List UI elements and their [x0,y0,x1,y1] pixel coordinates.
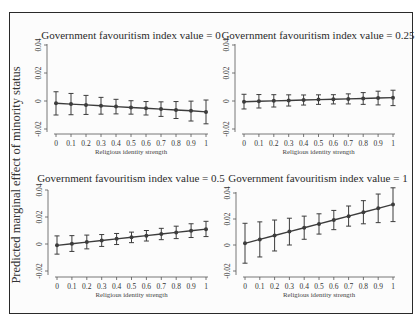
x-tick-label: 0.5 [314,139,324,148]
data-point [347,214,351,218]
x-tick-label: 0.7 [344,139,354,148]
x-tick-label: 0.2 [81,139,91,148]
data-point [376,206,380,210]
panel-title: Government favouritism index value = 0.5 [37,172,225,184]
data-point [174,230,178,234]
data-point [55,243,59,247]
x-tick-label: 0.8 [359,139,369,148]
y-tick-label: 0.04 [223,186,232,199]
x-tick-label: 1 [391,139,395,148]
x-tick-label: 0.4 [112,282,122,291]
x-tick-label: 0.9 [186,139,196,148]
data-point [114,105,118,109]
data-point [376,96,380,100]
x-tick-label: 0.1 [66,139,76,148]
data-point [317,98,321,102]
data-point [84,103,88,107]
data-point [258,237,262,241]
data-point [144,106,148,110]
chart-canvas: Government favouritism index value = 0-0… [0,0,420,327]
y-tick-label: 0.02 [34,66,43,79]
data-point [243,241,247,245]
x-tick-label: 0.6 [329,282,339,291]
x-tick-label: 0.1 [67,282,77,291]
x-tick-label: 0.3 [285,282,295,291]
x-tick-label: 0.6 [329,139,339,148]
x-tick-label: 0.3 [97,282,107,291]
data-point [272,99,276,103]
x-tick-label: 0 [54,139,58,148]
panel-title: Government favouritism index value = 0.2… [221,29,415,41]
x-tick-label: 0 [243,282,247,291]
data-point [332,218,336,222]
data-point [242,100,246,104]
panel-fav-1: Government favouritism index value = 1-0… [223,172,408,298]
y-tick-label: 0.02 [35,210,44,223]
x-tick-label: 0.8 [172,282,182,291]
panel-fav-0: Government favouritism index value = 0-0… [34,29,221,155]
data-point [204,110,208,114]
x-tick-label: 0.9 [186,282,196,291]
data-point [257,99,261,103]
data-point [144,234,148,238]
data-point [100,238,104,242]
data-point [391,202,395,206]
x-axis-label: Religious identity strength [282,148,355,155]
data-point [85,240,89,244]
data-point [361,96,365,100]
x-axis-label: Religious identity strength [95,291,168,298]
x-tick-label: 0.1 [254,139,264,148]
x-tick-label: 0.7 [156,139,166,148]
data-point [115,237,119,241]
x-tick-label: 0 [55,282,59,291]
data-point [204,227,208,231]
data-point [99,104,103,108]
y-tick-label: 0.04 [35,183,44,196]
data-point [287,230,291,234]
data-point [391,96,395,100]
data-point [129,105,133,109]
x-tick-label: 0.9 [373,139,383,148]
y-tick-label: -0.02 [35,263,44,279]
panel-title: Government favouritism index value = 0 [41,29,221,41]
y-tick-label: 0.02 [222,66,231,79]
data-point [302,98,306,102]
x-tick-label: 0.4 [299,139,309,148]
x-tick-label: 0.4 [111,139,121,148]
y-tick-label: 0 [34,99,43,103]
x-tick-label: 0.3 [96,139,106,148]
y-tick-label: -0.02 [222,121,231,137]
data-point [189,109,193,113]
x-tick-label: 0.7 [344,282,354,291]
y-tick-label: -0.02 [223,263,232,279]
x-tick-label: 0 [242,139,246,148]
x-tick-label: 0.5 [126,139,136,148]
y-tick-label: 0 [222,99,231,103]
data-point [317,222,321,226]
x-tick-label: 1 [391,282,395,291]
x-axis-label: Religious identity strength [283,291,356,298]
x-tick-label: 0.6 [141,139,151,148]
y-tick-label: 0 [223,243,232,247]
x-tick-label: 0.4 [300,282,310,291]
x-tick-label: 0.2 [269,139,279,148]
panel-title: Government favouritism index value = 1 [228,172,407,184]
y-tick-label: 0.04 [222,38,231,51]
data-point [159,232,163,236]
panel-fav-0.5: Government favouritism index value = 0.5… [35,172,225,298]
data-point [331,97,335,101]
y-tick-label: 0.04 [34,38,43,51]
x-tick-label: 0.2 [82,282,92,291]
panel-fav-0.25: Government favouritism index value = 0.2… [221,29,415,155]
data-point [174,108,178,112]
data-point [361,210,365,214]
y-tick-label: 0.02 [223,212,232,225]
x-axis-label: Religious identity strength [95,148,168,155]
x-tick-label: 0.8 [359,282,369,291]
x-tick-label: 1 [204,139,208,148]
x-tick-label: 0.6 [142,282,152,291]
data-point [54,101,58,105]
data-point [69,102,73,106]
data-point [273,234,277,238]
data-point [189,229,193,233]
